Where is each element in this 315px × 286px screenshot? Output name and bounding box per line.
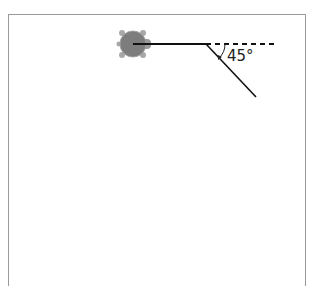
angle-arc — [219, 44, 225, 58]
angle-label: 45° — [227, 47, 254, 65]
